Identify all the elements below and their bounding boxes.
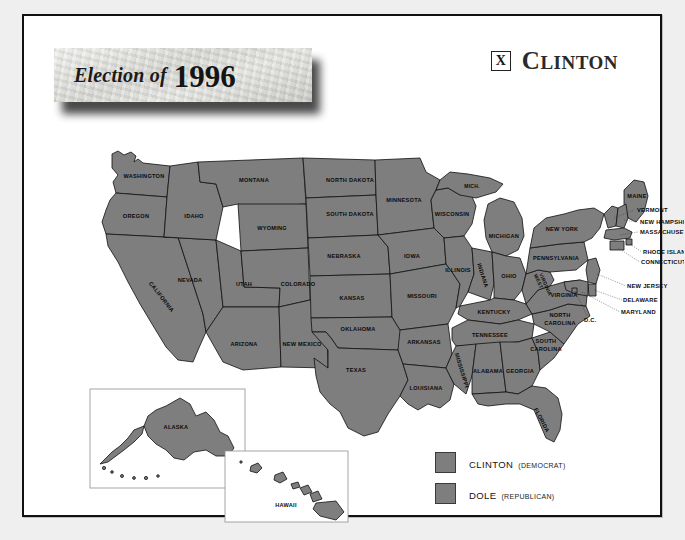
- state-arizona[interactable]: [206, 307, 281, 370]
- label-vermont: VERMONT: [637, 207, 668, 213]
- alaska-island-4: [133, 477, 136, 480]
- label-new-hampshire: NEW HAMPSHIRE: [640, 219, 684, 225]
- label-alaska: ALASKA: [164, 424, 189, 430]
- label-michigan: MICHIGAN: [489, 233, 519, 239]
- label-ohio: OHIO: [501, 273, 517, 279]
- label-pennsylvania: PENNSYLVANIA: [533, 255, 579, 261]
- leader-new-jersey: [597, 274, 626, 286]
- label-wyoming: WYOMING: [257, 225, 287, 231]
- state-new-jersey[interactable]: [586, 258, 600, 284]
- label-delaware: DELAWARE: [623, 297, 658, 303]
- state-connecticut[interactable]: [610, 241, 624, 250]
- legend-label-dole: DOLE(REPUBLICAN): [469, 485, 554, 503]
- label-hawaii: HAWAII: [275, 502, 297, 508]
- label-alabama: ALABAMA: [473, 368, 503, 374]
- alaska-island-1: [102, 466, 105, 469]
- label-louisiana: LOUISIANA: [409, 385, 442, 391]
- label-missouri: MISSOURI: [407, 293, 437, 299]
- label-rhode-island: RHODE ISLAND: [643, 249, 684, 255]
- alaska-island-6: [157, 475, 160, 478]
- label-maine: MAINE: [627, 193, 646, 199]
- label-south-dakota: SOUTH DAKOTA: [326, 211, 374, 217]
- label-north-carolina-line2: CAROLINA: [544, 320, 576, 326]
- label-minnesota: MINNESOTA: [386, 197, 421, 203]
- state-michigan[interactable]: [484, 198, 524, 256]
- winner-initial: C: [522, 47, 541, 74]
- label-massachusetts: MASSACHUSETTS: [640, 229, 684, 235]
- map-frame: WASHINGTON OREGON CALIFORNIA NEVADA IDAH…: [22, 14, 662, 517]
- label-nebraska: NEBRASKA: [327, 253, 361, 259]
- legend-name-clinton: CLINTON: [469, 459, 513, 470]
- label-michigan-upper: MICH.: [464, 183, 480, 189]
- label-oklahoma: OKLAHOMA: [341, 326, 376, 332]
- title-banner: Election of 1996: [54, 48, 312, 102]
- checkbox-x-icon[interactable]: X: [491, 51, 511, 71]
- map-legend: CLINTON(DEMOCRAT) DOLE(REPUBLICAN): [435, 452, 566, 514]
- label-new-jersey: NEW JERSEY: [627, 283, 668, 289]
- label-kansas: KANSAS: [339, 295, 364, 301]
- state-rhode-island[interactable]: [626, 239, 632, 245]
- state-florida[interactable]: [472, 386, 562, 442]
- label-illinois: ILLINOIS: [445, 267, 471, 273]
- label-montana: MONTANA: [239, 177, 269, 183]
- label-north-dakota: NORTH DAKOTA: [326, 177, 374, 183]
- label-new-mexico: NEW MEXICO: [282, 341, 322, 347]
- label-nevada: NEVADA: [178, 277, 203, 283]
- label-dc: D.C.: [584, 317, 597, 323]
- label-south-carolina-line1: SOUTH: [536, 338, 557, 344]
- election-map-page: WASHINGTON OREGON CALIFORNIA NEVADA IDAH…: [0, 0, 685, 540]
- label-south-carolina-line2: CAROLINA: [530, 346, 562, 352]
- label-texas: TEXAS: [346, 367, 366, 373]
- label-kentucky: KENTUCKY: [477, 309, 510, 315]
- label-utah: UTAH: [236, 281, 252, 287]
- legend-label-clinton: CLINTON(DEMOCRAT): [469, 454, 566, 472]
- alaska-island-5: [144, 476, 147, 479]
- label-iowa: IOWA: [404, 253, 420, 259]
- state-massachusetts[interactable]: [604, 228, 632, 240]
- legend-name-dole: DOLE: [469, 490, 496, 501]
- title-year: 1996: [174, 61, 236, 92]
- label-oregon: OREGON: [123, 213, 149, 219]
- winner-header: X CLINTON: [491, 48, 618, 73]
- legend-item-dole[interactable]: DOLE(REPUBLICAN): [435, 483, 566, 504]
- label-connecticut: CONNECTICUT: [641, 259, 684, 265]
- winner-name: CLINTON: [522, 48, 618, 73]
- state-delaware[interactable]: [588, 284, 596, 296]
- legend-item-clinton[interactable]: CLINTON(DEMOCRAT): [435, 452, 566, 473]
- label-new-york: NEW YORK: [546, 226, 579, 232]
- label-washington: WASHINGTON: [124, 173, 165, 179]
- legend-party-dole: (REPUBLICAN): [501, 493, 554, 500]
- label-arkansas: ARKANSAS: [407, 339, 441, 345]
- state-arkansas[interactable]: [398, 324, 452, 368]
- label-colorado: COLORADO: [281, 281, 316, 287]
- legend-swatch-dole: [435, 483, 456, 504]
- legend-swatch-clinton: [435, 452, 456, 473]
- label-idaho: IDAHO: [184, 213, 204, 219]
- label-tennessee: TENNESSEE: [472, 332, 508, 338]
- label-georgia: GEORGIA: [506, 368, 534, 374]
- hawaii-islet-1: [240, 461, 242, 463]
- winner-name-rest: LINTON: [540, 52, 618, 73]
- label-wisconsin: WISCONSIN: [435, 211, 470, 217]
- alaska-island-3: [121, 475, 124, 478]
- leader-delaware: [594, 290, 622, 300]
- label-north-carolina-line1: NORTH: [549, 312, 570, 318]
- label-virginia: VIRGINIA: [551, 292, 578, 298]
- legend-party-clinton: (DEMOCRAT): [518, 462, 565, 469]
- label-maryland: MARYLAND: [621, 309, 656, 315]
- alaska-island-2: [111, 471, 114, 474]
- label-arizona: ARIZONA: [230, 341, 257, 347]
- title-prefix: Election of: [74, 64, 167, 87]
